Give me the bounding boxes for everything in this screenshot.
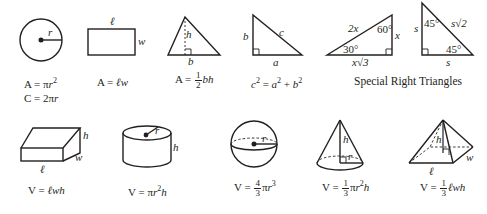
prism-length-label: ℓ	[40, 164, 45, 175]
triangle-30-60-90-figure	[327, 15, 392, 55]
t3060-angle60-label: 60°	[377, 24, 392, 35]
sphere-radius-label: r	[262, 133, 266, 144]
rectangle-figure	[88, 29, 135, 55]
cone-figure	[317, 120, 363, 170]
t4545-hyp-label: s√2	[451, 18, 467, 29]
circle-circumference-formula: C = 2πr	[24, 93, 58, 104]
circle-radius-label: r	[48, 27, 52, 38]
t3060-hyp-label: 2x	[348, 23, 358, 34]
pyr-width-label: w	[466, 152, 473, 163]
rect-area-formula: A = ℓw	[97, 77, 128, 88]
rt-leg-a-label: a	[273, 57, 279, 68]
triangle-figure	[168, 17, 220, 55]
circle-area-formula: A = πr2	[24, 77, 57, 90]
t4545-leg2-label: s	[446, 57, 450, 68]
t3060-short-leg-label: x	[395, 30, 400, 41]
tri-base-label: b	[188, 56, 194, 67]
right-triangle-figure	[253, 15, 302, 55]
cylinder-figure	[123, 126, 171, 167]
cyl-radius-label: r	[155, 125, 159, 136]
tri-height-label: h	[186, 29, 192, 40]
rect-width-label: w	[138, 36, 145, 47]
prism-volume-formula: V = ℓwh	[28, 185, 65, 196]
cone-volume-formula: V = 13πr2h	[322, 179, 369, 198]
circle-figure	[20, 19, 62, 61]
pyramid-volume-formula: V = 13ℓwh	[420, 179, 465, 198]
t4545-angle-bottom-label: 45°	[446, 44, 461, 55]
pythagorean-formula: c2 = a2 + b2	[251, 77, 302, 90]
prism-height-label: h	[83, 130, 89, 141]
cyl-height-label: h	[173, 142, 179, 153]
prism-width-label: w	[75, 152, 82, 163]
t4545-angle-top-label: 45°	[424, 18, 439, 29]
cone-radius-label: r	[348, 151, 352, 162]
cylinder-volume-formula: V = πr2h	[128, 185, 167, 198]
t3060-angle30-label: 30°	[343, 44, 358, 55]
special-right-triangles-title: Special Right Triangles	[354, 75, 462, 87]
rectangular-prism-figure	[21, 128, 80, 161]
sphere-volume-formula: V = 43πr3	[234, 179, 276, 198]
rt-leg-b-label: b	[243, 31, 249, 42]
t4545-leg1-label: s	[414, 23, 418, 34]
rt-hyp-c-label: c	[279, 27, 284, 38]
tri-area-formula: A = 12bh	[175, 71, 214, 90]
pyr-height-label: h	[436, 134, 442, 145]
sphere-figure	[231, 121, 277, 167]
t3060-long-leg-label: x√3	[352, 57, 368, 68]
rect-length-label: ℓ	[110, 16, 115, 27]
cone-height-label: h	[343, 134, 349, 145]
pyr-length-label: ℓ	[429, 166, 434, 177]
